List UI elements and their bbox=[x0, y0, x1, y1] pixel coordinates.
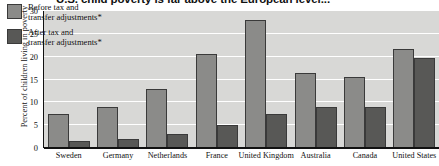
x-tick-label: United States bbox=[392, 151, 436, 160]
x-tick-label: United Kingdom bbox=[239, 151, 294, 160]
bar-before bbox=[393, 49, 414, 148]
y-tick-label: 0 bbox=[20, 144, 38, 153]
legend-item-before: Before tax and transfer adjustments* bbox=[7, 3, 102, 22]
gridline bbox=[44, 101, 439, 102]
x-tick-label: Australia bbox=[301, 151, 331, 160]
chart-figure: U.S. child poverty is far above the Euro… bbox=[0, 0, 439, 166]
bar-after bbox=[167, 134, 188, 148]
legend-item-after: After tax and transfer adjustments* bbox=[7, 28, 102, 47]
bar-after bbox=[217, 125, 238, 148]
legend-label-after: After tax and transfer adjustments* bbox=[28, 28, 102, 47]
plot-area bbox=[44, 11, 439, 148]
x-tick-label: Netherlands bbox=[148, 151, 188, 160]
bar-after bbox=[266, 114, 287, 148]
x-tick-label: Sweden bbox=[56, 151, 82, 160]
bar-before bbox=[196, 54, 217, 148]
chart-title: U.S. child poverty is far above the Euro… bbox=[56, 0, 436, 5]
bar-before bbox=[295, 73, 316, 148]
x-tick-label: Canada bbox=[353, 151, 378, 160]
legend-swatch-after-icon bbox=[7, 29, 22, 44]
bar-after bbox=[414, 58, 435, 148]
gridline bbox=[44, 79, 439, 80]
bar-before bbox=[344, 77, 365, 148]
x-axis-line bbox=[44, 147, 439, 149]
legend-swatch-before-icon bbox=[7, 4, 22, 19]
bar-after bbox=[365, 107, 386, 148]
gridline bbox=[44, 56, 439, 57]
y-tick-label: 10 bbox=[20, 98, 38, 107]
bar-after bbox=[316, 107, 337, 148]
x-tick-label: France bbox=[206, 151, 228, 160]
bar-before bbox=[245, 20, 266, 148]
bar-before bbox=[146, 89, 167, 148]
bar-before bbox=[97, 107, 118, 148]
gridline bbox=[44, 33, 439, 34]
y-tick-label: 20 bbox=[20, 52, 38, 61]
x-tick-label: Germany bbox=[103, 151, 133, 160]
y-tick-label: 5 bbox=[20, 121, 38, 130]
chart-legend: Before tax and transfer adjustments* Aft… bbox=[7, 3, 102, 53]
bar-before bbox=[48, 114, 69, 148]
legend-label-before: Before tax and transfer adjustments* bbox=[28, 3, 102, 22]
y-tick-label: 15 bbox=[20, 75, 38, 84]
